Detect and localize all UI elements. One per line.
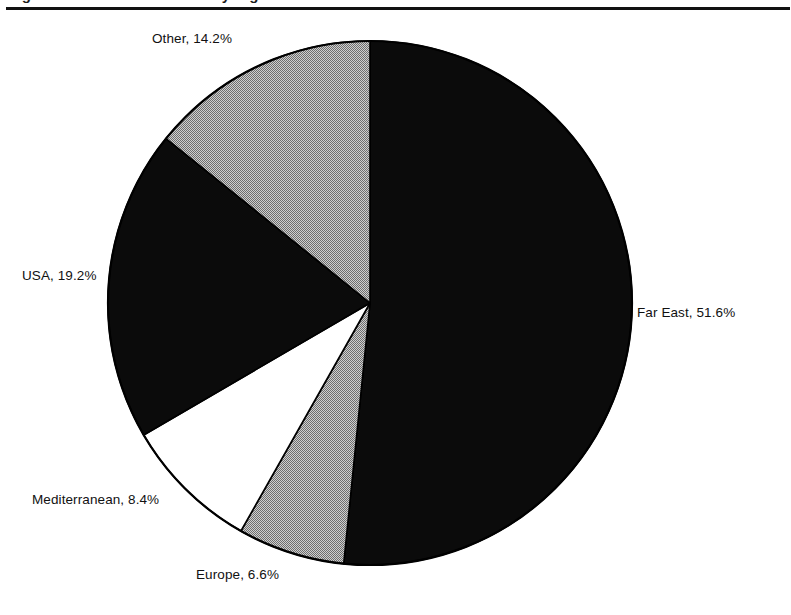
pie-slice-far-east bbox=[344, 41, 632, 565]
pie-slice-group bbox=[108, 41, 632, 565]
slice-label-far-east: Far East, 51.6% bbox=[637, 305, 735, 320]
slice-label-usa: USA, 19.2% bbox=[22, 268, 97, 283]
chart-page: Figure: World market share by region Oth… bbox=[0, 0, 791, 615]
slice-label-other: Other, 14.2% bbox=[152, 31, 232, 46]
slice-label-europe: Europe, 6.6% bbox=[196, 567, 279, 582]
slice-label-mediterranean: Mediterranean, 8.4% bbox=[32, 492, 159, 507]
